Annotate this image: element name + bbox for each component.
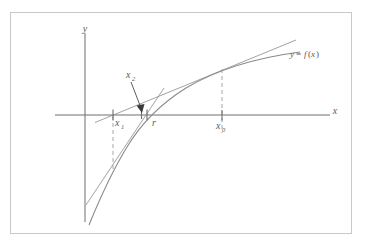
x1-label-subscript: 1 <box>121 123 124 130</box>
plot-canvas: y x y = f ( x ) x 0 x 1 x 2 r <box>0 0 366 249</box>
tangent-line-at-x0 <box>95 40 296 123</box>
figure-root: y x y = f ( x ) x 0 x 1 x 2 r <box>0 0 366 249</box>
x1-label: x 1 <box>114 117 124 130</box>
function-label-variable: x <box>310 49 315 59</box>
tangent-line-at-x1 <box>86 88 164 205</box>
x0-label-subscript: 0 <box>222 126 226 133</box>
function-label-equals: = <box>296 49 301 59</box>
function-curve <box>89 52 300 225</box>
function-curve-label: y = f ( x ) <box>289 49 319 59</box>
x1-label-base: x <box>114 117 120 128</box>
x-axis-label: x <box>332 105 338 116</box>
x2-label-subscript: 2 <box>132 75 136 82</box>
x2-pointer-line <box>131 82 141 108</box>
x2-label: x 2 <box>125 69 136 82</box>
root-label: r <box>152 117 156 128</box>
function-label-y: y <box>289 49 294 59</box>
x2-pointer-arrowhead <box>137 104 145 113</box>
function-label-paren-close: ) <box>316 49 319 59</box>
y-axis-label: y <box>82 23 88 34</box>
x0-label-base: x <box>215 120 221 131</box>
x2-label-base: x <box>125 69 131 80</box>
x0-label: x 0 <box>215 120 226 133</box>
